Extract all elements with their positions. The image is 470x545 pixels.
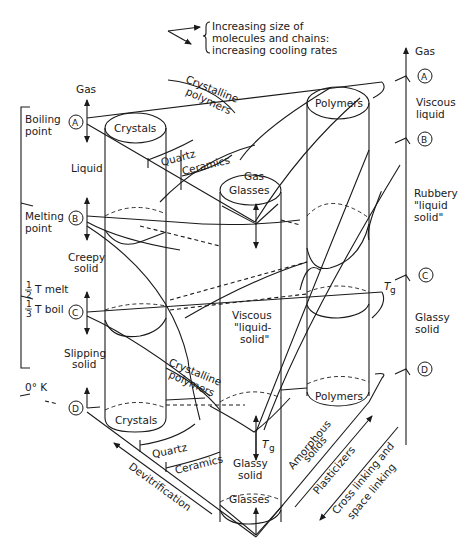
ceramics-bottom-label: Ceramics (174, 452, 224, 475)
legend-arrow-icon (168, 31, 191, 44)
svg-text:1: 1 (26, 280, 32, 290)
svg-text:B: B (421, 135, 427, 145)
right-gas-label: Gas (415, 45, 435, 57)
svg-text:solid": solid" (414, 211, 443, 223)
polymers-top-label: Polymers (315, 97, 363, 109)
legend-line-3: increasing cooling rates (212, 44, 337, 56)
left-state-column: Gas A Liquid B Creepy solid C Slipping s… (45, 83, 106, 415)
svg-text:B: B (72, 214, 78, 224)
material-states-diagram: Increasing size of molecules and chains:… (0, 0, 470, 545)
viscous-liquid-label: Viscous (416, 96, 456, 108)
svg-text:3: 3 (26, 309, 32, 319)
svg-text:g: g (269, 443, 275, 453)
legend: Increasing size of molecules and chains:… (168, 20, 337, 56)
svg-text:A: A (421, 72, 428, 82)
left-gas-label: Gas (76, 83, 96, 95)
center-gas-label: Gas (244, 170, 264, 182)
svg-text:1: 1 (26, 299, 32, 309)
svg-text:solid": solid" (240, 333, 269, 345)
svg-text:"liquid: "liquid (414, 199, 448, 211)
legend-arrow-icon (168, 27, 200, 31)
svg-text:T melt: T melt (34, 283, 68, 295)
crystals-bottom-label: Crystals (115, 414, 157, 426)
svg-text:solid: solid (238, 469, 262, 481)
glassy-solid-right-label: Glassy (415, 311, 450, 323)
glassy-solid-center-label: Glassy (233, 457, 268, 469)
svg-text:"liquid-: "liquid- (234, 321, 272, 333)
crystals-top-label: Crystals (114, 122, 156, 134)
svg-text:solid: solid (72, 358, 96, 370)
half-tmelt-label: 1 2 T melt (25, 280, 68, 300)
rubbery-liquid-solid-label: Rubbery (414, 187, 458, 199)
viscous-liquid-solid-label: Viscous (232, 309, 272, 321)
glasses-bottom-label: Glasses (229, 493, 269, 505)
crystals-cylinder: Crystals Crystals (105, 113, 166, 432)
legend-line-1: Increasing size of (212, 20, 304, 32)
zero-kelvin-label: 0° K (25, 381, 48, 393)
svg-text:g: g (390, 285, 396, 295)
svg-text:liquid: liquid (416, 108, 445, 120)
melting-point-label: Melting (25, 210, 64, 222)
third-tboil-label: 1 3 T boil (25, 299, 64, 319)
svg-text:C: C (72, 308, 78, 318)
svg-text:solid: solid (415, 323, 439, 335)
svg-text:C: C (422, 271, 428, 281)
svg-text:T boil: T boil (34, 303, 64, 315)
legend-brace (203, 22, 210, 53)
svg-text:point: point (25, 222, 52, 234)
glasses-top-label: Glasses (229, 184, 269, 196)
polymers-cylinder: Polymers Polymers (300, 87, 369, 406)
left-liquid-label: Liquid (71, 162, 103, 174)
svg-text:D: D (421, 365, 428, 375)
polymers-bottom-label: Polymers (315, 390, 363, 402)
legend-line-2: molecules and chains: (212, 32, 329, 44)
left-temperature-scale: Boiling point Melting point 1 2 T melt 1… (20, 107, 68, 396)
svg-text:A: A (72, 118, 79, 128)
right-state-scale: Gas A Viscous liquid B Rubbery "liquid s… (384, 45, 458, 445)
svg-text:point: point (25, 125, 52, 137)
svg-text:D: D (72, 404, 79, 414)
svg-text:solid: solid (74, 262, 98, 274)
quartz-bottom-label: Quartz (151, 441, 189, 460)
boiling-point-label: Boiling (25, 113, 61, 125)
